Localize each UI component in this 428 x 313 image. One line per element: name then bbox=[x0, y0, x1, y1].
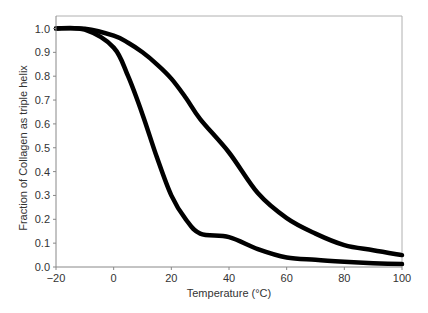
series-upper-curve bbox=[56, 28, 402, 255]
x-tick-label: 40 bbox=[223, 272, 235, 284]
y-tick-label: 0.4 bbox=[35, 166, 50, 178]
y-tick-label: 0.2 bbox=[35, 213, 50, 225]
y-tick-label: 0.5 bbox=[35, 142, 50, 154]
y-tick-label: 0.3 bbox=[35, 189, 50, 201]
x-tick-label: 0 bbox=[111, 272, 117, 284]
y-tick-label: 0.0 bbox=[35, 261, 50, 273]
axes: −200204060801000.00.10.20.30.40.50.60.70… bbox=[35, 16, 411, 284]
y-tick-label: 0.9 bbox=[35, 46, 50, 58]
x-tick-label: 60 bbox=[281, 272, 293, 284]
chart: −200204060801000.00.10.20.30.40.50.60.70… bbox=[0, 0, 428, 313]
data-series bbox=[56, 28, 402, 264]
y-tick-label: 0.1 bbox=[35, 237, 50, 249]
x-tick-label: 20 bbox=[165, 272, 177, 284]
y-tick-label: 0.6 bbox=[35, 118, 50, 130]
x-tick-label: 80 bbox=[338, 272, 350, 284]
plot-frame bbox=[56, 16, 402, 267]
y-tick-label: 0.8 bbox=[35, 70, 50, 82]
x-tick-label: 100 bbox=[393, 272, 411, 284]
series-lower-curve bbox=[56, 28, 402, 264]
x-tick-label: −20 bbox=[47, 272, 66, 284]
y-tick-label: 0.7 bbox=[35, 94, 50, 106]
plot-border bbox=[56, 16, 402, 267]
y-tick-label: 1.0 bbox=[35, 23, 50, 35]
y-axis-label: Fraction of Collagen as triple helix bbox=[17, 65, 29, 231]
x-axis-label: Temperature (°C) bbox=[187, 287, 271, 299]
